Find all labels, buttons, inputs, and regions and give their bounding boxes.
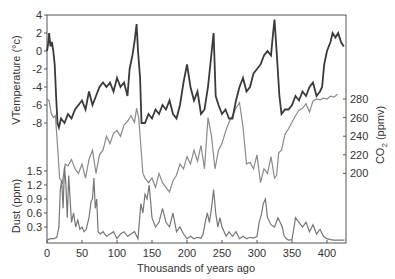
dust-tick-label: 0.3 [27,221,42,233]
co2-tick-label: 200 [350,167,368,179]
temperature-tick-label: -8 [32,117,42,129]
co2-series [47,94,338,192]
temperature-tick-label: 0 [36,45,42,57]
x-axis-label: Thousands of years ago [137,262,255,274]
co2-tick-label: 260 [350,112,368,124]
co2-tick-label: 280 [350,93,368,105]
temperature-axis-ticks: 420-2-4-6-8 [32,9,47,129]
x-tick-label: 50 [76,247,88,259]
x-tick-label: 350 [283,247,301,259]
x-tick-label: 0 [44,247,50,259]
temperature-series [47,20,344,128]
co2-tick-label: 240 [350,130,368,142]
co2-axis-ticks: 280260240220200 [343,93,368,179]
x-tick-label: 400 [318,247,336,259]
dust-series [47,166,345,240]
temperature-tick-label: -2 [32,63,42,75]
dust-axis-ticks: 1.51.20.90.60.3 [27,165,47,233]
dust-tick-label: 0.9 [27,193,42,205]
dust-tick-label: 1.2 [27,179,42,191]
dust-tick-label: 0.6 [27,207,42,219]
plot-frame [47,15,346,243]
x-tick-label: 200 [178,247,196,259]
dust-axis-label: Dust (ppm) [10,179,22,233]
x-tick-label: 150 [143,247,161,259]
x-tick-label: 300 [248,247,266,259]
temperature-tick-label: -4 [32,81,42,93]
co2-axis-label: CO2 (ppmv) [374,106,389,164]
ice-core-chart: 420-2-4-6-8 1.51.20.90.60.3 280260240220… [0,0,395,279]
temperature-tick-label: -6 [32,99,42,111]
x-tick-label: 250 [213,247,231,259]
temperature-tick-label: 4 [36,9,42,21]
dust-tick-label: 1.5 [27,165,42,177]
x-tick-label: 100 [108,247,126,259]
temperature-axis-label: VTemperature (°c) [10,35,22,124]
co2-tick-label: 220 [350,149,368,161]
temperature-tick-label: 2 [36,27,42,39]
